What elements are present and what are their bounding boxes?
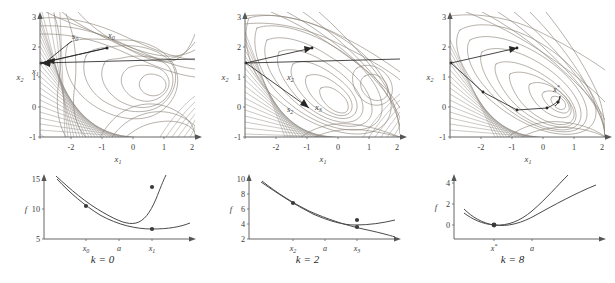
y-tick-0: 0 (442, 103, 446, 112)
x-tick-alpha: a (530, 244, 534, 253)
model-curve (56, 175, 166, 224)
iterate-point-1 (311, 47, 314, 50)
label-s0: s0 (72, 31, 78, 42)
marker-x3-f (355, 225, 359, 229)
y-axis-label: x2 (16, 72, 24, 83)
panel-caption-k0: k = 0 (0, 253, 205, 265)
y-tick-4: 4 (241, 220, 245, 229)
x-tick-0: 0 (336, 143, 340, 152)
curves (464, 175, 596, 226)
curves (56, 175, 190, 229)
contour-panel-k8: 3 2 1 0 -1 -2 -1 0 1 2 x2 x1 x* (410, 0, 615, 165)
x-axis-arrow (195, 134, 202, 139)
y-tick-6: 6 (241, 205, 245, 214)
marker-x1-model (150, 185, 154, 189)
x-tick-minus2: -2 (273, 143, 280, 152)
y-tick-minus1: -1 (234, 133, 241, 142)
marker-x-star (492, 223, 497, 228)
trajectory-path (245, 46, 400, 108)
line-search-panel-k8: 4 2 0 x* a f k = 8 (410, 165, 615, 255)
x-tick-2: 2 (600, 143, 604, 152)
markers (492, 223, 497, 228)
iterate-point-5 (546, 107, 549, 110)
x-axis-label: x1 (319, 154, 327, 165)
x-tick-1: 1 (162, 143, 166, 152)
axes (246, 174, 401, 242)
x-tick-0: 0 (541, 143, 545, 152)
contour-set-dense (245, 32, 336, 137)
x-tick-x-star: x* (490, 243, 498, 253)
y-axis-arrow (246, 174, 251, 181)
marker-x0 (84, 204, 88, 208)
y-axis-arrow (451, 174, 456, 181)
y-tick-4: 4 (446, 179, 450, 188)
y-axis-label: f (230, 204, 234, 214)
x-axis-arrow (189, 236, 196, 241)
y-axis-arrow (37, 12, 42, 19)
y-tick-minus1: -1 (29, 133, 36, 142)
markers (84, 185, 154, 231)
line-search-panel-k0: 15 10 5 x0 a x1 f k = 0 (0, 165, 205, 255)
contour-panel-k2: 3 2 1 0 -1 -2 -1 0 1 2 x2 x1 x2 s2 x3 (205, 0, 410, 165)
y-tick-0: 0 (446, 221, 450, 230)
y-tick-2: 2 (446, 200, 450, 209)
x-axis-label: x1 (524, 154, 532, 165)
y-tick-2: 2 (237, 43, 241, 52)
marker-x2 (291, 201, 295, 205)
x-tick-1: 1 (572, 143, 576, 152)
y-tick-10: 10 (32, 205, 40, 214)
x-axis-arrow (599, 236, 606, 241)
objective-curve (464, 185, 596, 226)
panel-caption-k2: k = 2 (205, 253, 410, 265)
marker-x3-model (355, 218, 359, 222)
label-x3: x3 (314, 102, 322, 113)
contour-set-right-dense (160, 96, 195, 137)
y-tick-minus1: -1 (439, 133, 446, 142)
x-axis-arrow (394, 236, 401, 241)
x-tick-alpha: a (323, 244, 327, 253)
iterate-point-4 (516, 109, 519, 112)
y-tick-2: 2 (442, 43, 446, 52)
label-x2: x2 (286, 72, 294, 83)
x-tick-minus1: -1 (509, 143, 516, 152)
iterate-point-optimum (556, 100, 559, 103)
label-x1: x1 (31, 66, 39, 77)
curves (261, 181, 395, 237)
label-x-star: x* (552, 84, 560, 94)
y-tick-8: 8 (241, 190, 245, 199)
y-axis-arrow (41, 174, 46, 181)
arrowhead-x2 (304, 46, 312, 53)
iterate-point-3 (482, 91, 485, 94)
y-tick-3: 3 (237, 13, 241, 22)
y-tick-3: 3 (442, 13, 446, 22)
y-axis-label: f (25, 204, 29, 214)
figure-root: 3 2 1 0 -1 -2 -1 0 1 2 x2 x1 s0 x0 x1 (0, 0, 615, 283)
contour-set-main (40, 12, 195, 137)
y-tick-5: 5 (36, 235, 40, 244)
y-tick-0: 0 (237, 103, 241, 112)
x-tick-minus2: -2 (68, 143, 75, 152)
iterate-point-x0 (106, 47, 109, 50)
objective-curve (262, 181, 395, 237)
x-tick-minus1: -1 (99, 143, 106, 152)
y-tick-0: 0 (32, 103, 36, 112)
y-axis-label: x2 (221, 72, 229, 83)
contour-panel-k0: 3 2 1 0 -1 -2 -1 0 1 2 x2 x1 s0 x0 x1 (0, 0, 205, 165)
contour-set-main (450, 12, 605, 137)
panel-caption-k8: k = 8 (410, 253, 615, 265)
marker-x1-f (150, 227, 154, 231)
x-tick-0: 0 (131, 143, 135, 152)
x-axis-arrow (605, 134, 612, 139)
x-tick-1: 1 (367, 143, 371, 152)
y-tick-15: 15 (32, 175, 40, 184)
x-tick-minus2: -2 (478, 143, 485, 152)
iterate-point-1 (516, 47, 519, 50)
contour-set-dense (450, 40, 540, 137)
y-tick-1: 1 (442, 73, 446, 82)
y-tick-2: 2 (32, 43, 36, 52)
x-tick-minus1: -1 (304, 143, 311, 152)
x-tick-alpha: a (117, 244, 121, 253)
x-tick-2: 2 (395, 143, 399, 152)
y-tick-10: 10 (237, 175, 245, 184)
x-tick-2: 2 (190, 143, 194, 152)
